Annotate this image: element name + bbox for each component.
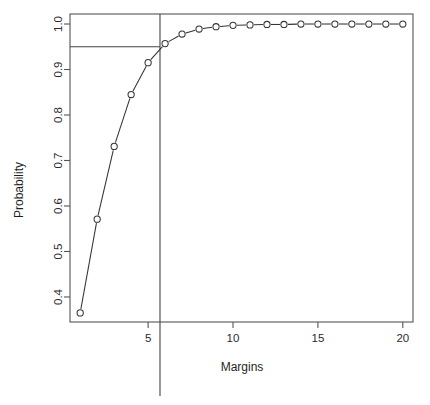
y-tick-label: 1.0 <box>52 16 64 32</box>
x-tick-label: 5 <box>145 332 151 344</box>
y-tick-label: 0.9 <box>52 62 64 78</box>
y-tick-label: 0.7 <box>52 152 64 168</box>
probability-margins-plot: 51015200.40.50.60.70.80.91.0 Margins Pro… <box>0 0 430 405</box>
x-tick-label: 10 <box>227 332 240 344</box>
x-tick-label: 15 <box>312 332 325 344</box>
y-tick-label: 0.6 <box>52 198 64 214</box>
y-tick-label: 0.8 <box>52 107 64 123</box>
y-tick-label: 0.5 <box>52 243 64 259</box>
y-axis-title: Probability <box>12 162 26 218</box>
chart-page: 51015200.40.50.60.70.80.91.0 Margins Pro… <box>0 0 430 405</box>
y-tick-label: 0.4 <box>52 288 64 305</box>
x-axis-title: Margins <box>221 360 264 374</box>
series-segment <box>220 26 229 27</box>
plot-background <box>0 0 430 405</box>
x-tick-label: 20 <box>396 332 409 344</box>
